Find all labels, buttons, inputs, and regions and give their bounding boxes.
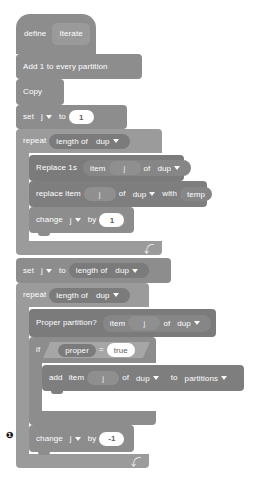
item-label: item xyxy=(90,164,106,173)
block-replace-item[interactable]: replace item j of dup with temp xyxy=(29,181,207,207)
repeat-block-1[interactable]: repeat length of dup ⤵ Replace 1s item j… xyxy=(16,129,162,255)
list-name: dup xyxy=(96,291,110,300)
repeat-block-2[interactable]: repeat length of dup ⤵ Proper partition?… xyxy=(16,283,149,468)
chevron-down-icon xyxy=(113,293,119,297)
repeat-1-footer: ⤵ xyxy=(16,241,162,255)
variable-dropdown-j[interactable]: j xyxy=(37,111,56,124)
list-name: dup xyxy=(136,374,150,383)
temp-variable-reporter[interactable]: temp xyxy=(180,187,212,201)
chevron-down-icon xyxy=(132,269,138,273)
define-keyword: define xyxy=(24,30,46,38)
temp-label: temp xyxy=(187,190,205,199)
chevron-down-icon xyxy=(46,269,52,273)
of-label: of xyxy=(119,190,126,198)
list-dropdown-dup[interactable]: dup xyxy=(129,188,160,201)
variable-dropdown-j[interactable]: j xyxy=(66,432,85,445)
by-label: by xyxy=(88,216,97,224)
index-input[interactable]: j xyxy=(84,187,116,201)
list-name: dup xyxy=(115,266,129,275)
true-input[interactable]: true xyxy=(107,343,135,357)
by-label: by xyxy=(88,435,97,443)
change-keyword: change xyxy=(36,216,63,224)
item-of-reporter[interactable]: item j of dup xyxy=(103,315,211,332)
if-block[interactable]: if proper = true then add item j of xyxy=(29,337,156,425)
list-dropdown-dup[interactable]: dup xyxy=(111,264,142,277)
block-set-j-to-length[interactable]: set j to length of dup xyxy=(16,258,171,283)
chevron-down-icon xyxy=(46,115,52,119)
if-keyword: if xyxy=(36,346,40,354)
add-1-label: Add 1 to every partition xyxy=(23,63,108,71)
loop-arrow-icon: ⤵ xyxy=(144,241,154,256)
list-dropdown-dup[interactable]: dup xyxy=(92,135,123,148)
proper-variable-reporter[interactable]: proper xyxy=(58,344,96,357)
list-dropdown-dup[interactable]: dup xyxy=(92,289,123,302)
variable-name: j xyxy=(41,113,43,121)
then-label: then xyxy=(157,346,173,354)
length-of-reporter[interactable]: length of dup xyxy=(69,263,149,278)
block-copy[interactable]: Copy xyxy=(16,79,64,105)
block-add-1-to-every-partition[interactable]: Add 1 to every partition xyxy=(16,54,142,79)
block-change-j-by-1[interactable]: change j by 1 xyxy=(29,207,134,233)
item-label: item xyxy=(110,319,126,328)
list-name: dup xyxy=(157,164,171,173)
replace-1s-label: Replace 1s xyxy=(36,164,77,172)
repeat-2-footer: ⤵ xyxy=(16,454,149,468)
chevron-down-icon xyxy=(153,376,159,380)
to-label: to xyxy=(171,374,178,382)
list-dropdown-dup[interactable]: dup xyxy=(173,317,204,330)
if-spine xyxy=(29,363,42,411)
proper-partition-label: Proper partition? xyxy=(36,319,97,327)
repeat-1-header[interactable]: repeat length of dup xyxy=(16,129,162,153)
block-set-j-to-1[interactable]: set j to 1 xyxy=(16,105,127,129)
variable-dropdown-j[interactable]: j xyxy=(37,264,56,277)
chevron-down-icon xyxy=(194,321,200,325)
define-hat-block[interactable]: define Iterate xyxy=(16,14,96,54)
repeat-2-header[interactable]: repeat length of dup xyxy=(16,283,149,307)
set-keyword: set xyxy=(23,113,34,121)
index-input[interactable]: j xyxy=(109,161,141,175)
variable-dropdown-j[interactable]: j xyxy=(66,214,85,227)
list-dropdown-partitions[interactable]: partitions xyxy=(181,372,231,385)
list-name: dup xyxy=(96,137,110,146)
variable-name: j xyxy=(70,434,72,443)
loop-arrow-icon: ⤵ xyxy=(131,454,141,469)
repeat-2-spine xyxy=(16,307,29,454)
procedure-name: Iterate xyxy=(59,30,82,38)
length-of-label: length of xyxy=(76,266,108,275)
length-of-label: length of xyxy=(56,137,88,146)
item-of-reporter[interactable]: item j of dup xyxy=(83,160,191,176)
index-input[interactable]: j xyxy=(87,371,119,385)
list-dropdown-dup[interactable]: dup xyxy=(132,372,163,385)
block-change-j-by-neg1[interactable]: change j by -1 xyxy=(29,425,134,452)
chevron-down-icon xyxy=(174,166,180,170)
variable-name: j xyxy=(41,266,43,275)
length-of-reporter[interactable]: length of dup xyxy=(49,134,129,149)
block-add-item-to-partitions[interactable]: add item j of dup to partitions xyxy=(42,365,244,391)
script-canvas: define Iterate Add 1 to every partition … xyxy=(0,0,267,486)
procedure-prototype[interactable]: Iterate xyxy=(52,23,89,45)
equals-operator: = xyxy=(99,346,104,354)
proper-label: proper xyxy=(65,346,89,355)
block-replace-1s[interactable]: Replace 1s item j of dup xyxy=(29,155,184,181)
value-input[interactable]: 1 xyxy=(69,110,94,124)
chevron-down-icon xyxy=(75,437,81,441)
repeat-1-spine xyxy=(16,153,29,241)
length-of-label: length of xyxy=(56,291,88,300)
value-input[interactable]: -1 xyxy=(99,432,124,446)
index-input[interactable]: j xyxy=(128,316,160,330)
copy-label: Copy xyxy=(23,88,42,96)
change-keyword: change xyxy=(36,435,63,443)
list-name: dup xyxy=(177,319,191,328)
equals-predicate[interactable]: proper = true xyxy=(43,342,150,358)
to-label: to xyxy=(59,113,66,121)
to-label: to xyxy=(59,267,66,275)
value-input[interactable]: 1 xyxy=(99,213,124,227)
add-keyword: add xyxy=(49,374,63,382)
block-proper-partition[interactable]: Proper partition? item j of dup xyxy=(29,309,216,337)
length-of-reporter[interactable]: length of dup xyxy=(49,288,129,303)
list-dropdown-dup[interactable]: dup xyxy=(153,162,184,175)
of-label: of xyxy=(163,319,170,328)
if-footer xyxy=(29,411,156,425)
if-header[interactable]: if proper = true then xyxy=(29,337,156,363)
variable-name: j xyxy=(70,216,72,225)
